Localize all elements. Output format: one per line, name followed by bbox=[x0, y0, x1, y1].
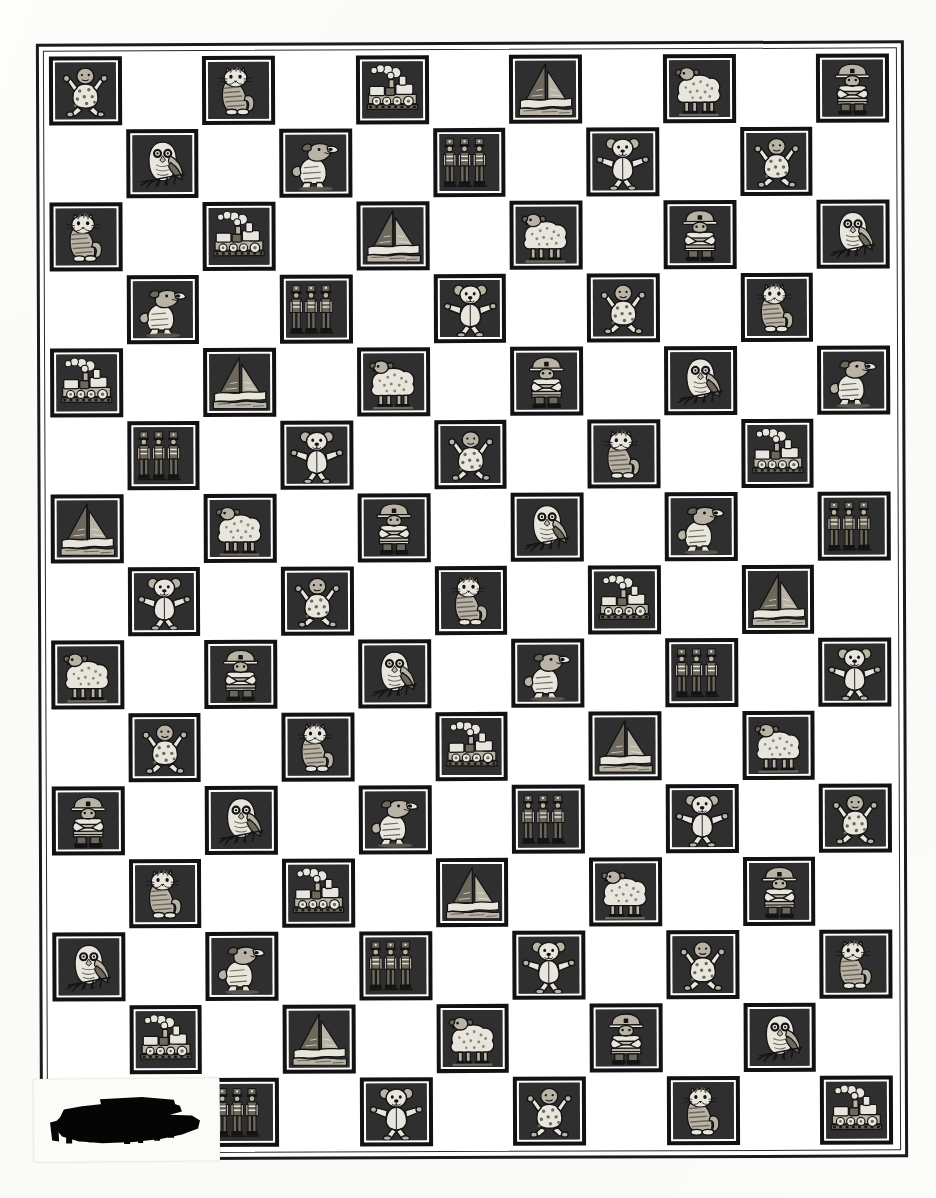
motif-tile-owl bbox=[511, 493, 584, 562]
dog-icon bbox=[132, 281, 193, 338]
motif-tile-owl bbox=[664, 346, 737, 415]
motif-cell bbox=[203, 784, 280, 857]
owl-icon bbox=[364, 645, 425, 702]
empty-cell bbox=[661, 125, 738, 198]
empty-cell bbox=[356, 564, 433, 637]
motif-tile-soldiers bbox=[818, 491, 891, 560]
page-frame bbox=[36, 40, 908, 1160]
fireman-icon bbox=[669, 206, 730, 263]
empty-cell bbox=[432, 491, 509, 564]
motif-cell bbox=[357, 929, 434, 1002]
empty-cell bbox=[740, 782, 817, 855]
motif-tile-dog bbox=[664, 492, 737, 561]
motif-cell bbox=[434, 856, 511, 929]
empty-cell bbox=[277, 53, 354, 126]
baby-icon bbox=[672, 936, 733, 993]
baby-icon bbox=[746, 133, 807, 190]
motif-cell bbox=[125, 419, 202, 492]
motif-tile-teddy-bear bbox=[666, 784, 739, 853]
empty-cell bbox=[434, 1075, 511, 1148]
owl-icon bbox=[823, 205, 884, 262]
motif-cell bbox=[740, 709, 817, 782]
empty-cell bbox=[740, 636, 817, 709]
motif-cell bbox=[738, 125, 815, 198]
empty-cell bbox=[125, 346, 202, 419]
dog-icon bbox=[212, 938, 273, 995]
motif-tile-sailboat bbox=[51, 494, 124, 563]
motif-cell bbox=[357, 783, 434, 856]
motif-tile-teddy-bear bbox=[513, 931, 586, 1000]
empty-cell bbox=[739, 344, 816, 417]
empty-cell bbox=[279, 637, 356, 710]
motif-cell bbox=[508, 199, 585, 272]
train-icon bbox=[135, 1011, 196, 1068]
motif-cell bbox=[584, 125, 661, 198]
motif-tile-sailboat bbox=[203, 348, 276, 417]
motif-tile-sheep bbox=[204, 494, 277, 563]
sailboat-icon bbox=[515, 61, 576, 118]
empty-cell bbox=[586, 636, 663, 709]
motif-tile-cat bbox=[434, 566, 507, 635]
soldiers-icon bbox=[824, 497, 885, 554]
motif-cell bbox=[279, 564, 356, 637]
baby-icon bbox=[519, 1083, 580, 1140]
motif-cell bbox=[818, 1073, 895, 1146]
empty-cell bbox=[587, 782, 664, 855]
empty-cell bbox=[738, 198, 815, 271]
baby-icon bbox=[134, 719, 195, 776]
train-icon bbox=[56, 354, 117, 411]
motif-cell bbox=[816, 489, 893, 562]
teddy-bear-icon bbox=[519, 937, 580, 994]
motif-tile-teddy-bear bbox=[280, 420, 353, 489]
motif-tile-teddy-bear bbox=[360, 1077, 433, 1146]
motif-tile-baby bbox=[513, 1077, 586, 1146]
motif-cell bbox=[587, 855, 664, 928]
empty-cell bbox=[127, 930, 204, 1003]
motif-cell bbox=[509, 637, 586, 710]
motif-cell bbox=[814, 51, 891, 124]
motif-cell bbox=[278, 272, 355, 345]
empty-cell bbox=[431, 53, 508, 126]
empty-cell bbox=[357, 1002, 434, 1075]
empty-cell bbox=[816, 562, 893, 635]
motif-cell bbox=[50, 784, 127, 857]
empty-cell bbox=[663, 563, 740, 636]
motif-cell bbox=[280, 710, 357, 783]
empty-cell bbox=[662, 271, 739, 344]
empty-cell bbox=[664, 1001, 741, 1074]
empty-cell bbox=[357, 856, 434, 929]
motif-tile-soldiers bbox=[433, 128, 506, 197]
motif-tile-baby bbox=[128, 713, 201, 782]
motif-cell bbox=[354, 199, 431, 272]
motif-grid bbox=[47, 51, 895, 1149]
motif-tile-dog bbox=[512, 639, 585, 708]
motif-tile-sailboat bbox=[283, 1004, 356, 1073]
empty-cell bbox=[280, 929, 357, 1002]
motif-tile-owl bbox=[358, 639, 431, 708]
motif-cell bbox=[585, 271, 662, 344]
motif-tile-owl bbox=[205, 786, 278, 855]
empty-cell bbox=[356, 710, 433, 783]
sheep-icon bbox=[442, 1010, 503, 1067]
empty-cell bbox=[204, 1003, 281, 1076]
sailboat-icon bbox=[57, 500, 118, 557]
motif-tile-train bbox=[435, 712, 508, 781]
empty-cell bbox=[47, 127, 124, 200]
motif-tile-owl bbox=[817, 199, 890, 268]
sailboat-icon bbox=[595, 717, 656, 774]
motif-tile-dog bbox=[126, 275, 199, 344]
empty-cell bbox=[585, 198, 662, 271]
motif-cell bbox=[585, 417, 662, 490]
motif-cell bbox=[432, 418, 509, 491]
cat-icon bbox=[55, 208, 116, 265]
motif-cell bbox=[433, 710, 510, 783]
motif-cell bbox=[49, 492, 126, 565]
motif-cell bbox=[280, 856, 357, 929]
motif-cell bbox=[201, 346, 278, 419]
motif-cell bbox=[124, 273, 201, 346]
empty-cell bbox=[355, 418, 432, 491]
motif-tile-baby bbox=[49, 56, 122, 125]
cat-icon bbox=[135, 865, 196, 922]
motif-cell bbox=[816, 635, 893, 708]
motif-tile-fireman bbox=[205, 640, 278, 709]
